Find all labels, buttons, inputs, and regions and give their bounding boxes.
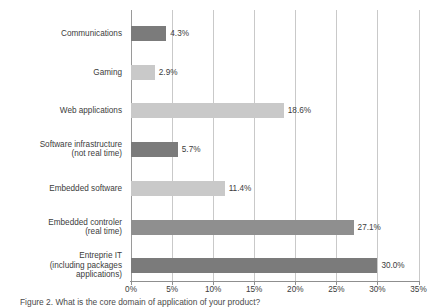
bar-row: Gaming2.9% (0, 57, 436, 96)
x-tick-mark (172, 281, 173, 285)
category-label: Entreprie IT (including packages applica… (0, 251, 122, 280)
bar (131, 26, 166, 41)
x-tick-label: 10% (193, 284, 233, 295)
bar (131, 65, 155, 80)
bar-value-label: 30.0% (381, 261, 404, 271)
x-axis-tick-labels: 0%5%10%15%20%25%30%35% (0, 284, 436, 298)
x-tick-label: 20% (275, 284, 315, 295)
x-tick-label: 0% (111, 284, 151, 295)
bar-row: Embedded controler (real time)27.1% (0, 212, 436, 251)
bar (131, 103, 284, 118)
x-tick-mark (254, 281, 255, 285)
chart-plot-area: Communications4.3%Gaming2.9%Web applicat… (0, 0, 436, 286)
figure-caption: Figure 2. What is the core domain of app… (20, 297, 436, 307)
x-tick-mark (336, 281, 337, 285)
bar (131, 258, 377, 273)
x-tick-label: 15% (234, 284, 274, 295)
x-tick-label: 25% (316, 284, 356, 295)
bar-value-label: 27.1% (358, 223, 381, 233)
category-label: Embedded controler (real time) (0, 218, 122, 237)
bar (131, 181, 225, 196)
category-label: Software infrastructure (not real time) (0, 140, 122, 159)
bar-value-label: 4.3% (170, 29, 189, 39)
category-label: Communications (0, 29, 122, 39)
category-label: Gaming (0, 68, 122, 78)
bar (131, 220, 354, 235)
x-tick-mark (213, 281, 214, 285)
bar-row: Embedded software11.4% (0, 173, 436, 212)
bar-value-label: 2.9% (159, 68, 178, 78)
bar-value-label: 18.6% (288, 106, 311, 116)
x-tick-label: 30% (357, 284, 397, 295)
bar-value-label: 11.4% (229, 184, 252, 194)
bar-value-label: 5.7% (182, 145, 201, 155)
x-tick-mark (295, 281, 296, 285)
x-tick-label: 35% (399, 284, 436, 295)
bar (131, 142, 178, 157)
category-label: Web applications (0, 106, 122, 116)
bar-row: Communications4.3% (0, 18, 436, 57)
x-tick-mark (419, 281, 420, 285)
bar-row: Software infrastructure (not real time)5… (0, 134, 436, 173)
x-tick-label: 5% (152, 284, 192, 295)
x-tick-mark (377, 281, 378, 285)
x-tick-mark (131, 281, 132, 285)
bar-row: Web applications18.6% (0, 95, 436, 134)
category-label: Embedded software (0, 184, 122, 194)
